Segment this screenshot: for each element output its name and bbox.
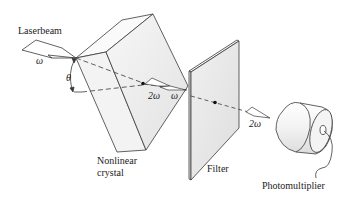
output-beam-wedge-icon <box>246 107 270 118</box>
laserbeam-label: Laserbeam <box>18 25 62 36</box>
photomultiplier-label: Photomultiplier <box>262 180 325 191</box>
filter-focus-dot <box>213 101 217 105</box>
filter-label: Filter <box>207 163 229 174</box>
nonlinear-crystal <box>76 14 188 152</box>
nonlinear-crystal-label-line1: Nonlinear <box>97 155 138 166</box>
shg-diagram: Laserbeam ω θ 2ω ω Nonlinear crystal Fil… <box>0 0 352 200</box>
theta-label: θ <box>66 72 71 83</box>
two-omega-inner-label: 2ω <box>148 90 160 101</box>
nonlinear-crystal-label-line2: crystal <box>97 167 124 178</box>
omega-input-label: ω <box>36 55 43 66</box>
crystal-focus-dot <box>141 82 145 86</box>
photomultiplier <box>276 102 336 178</box>
filter-plate <box>189 40 239 180</box>
laser-beam-arrow-icon <box>22 40 76 58</box>
omega-inner-label: ω <box>171 90 178 101</box>
two-omega-output-label: 2ω <box>249 118 261 129</box>
